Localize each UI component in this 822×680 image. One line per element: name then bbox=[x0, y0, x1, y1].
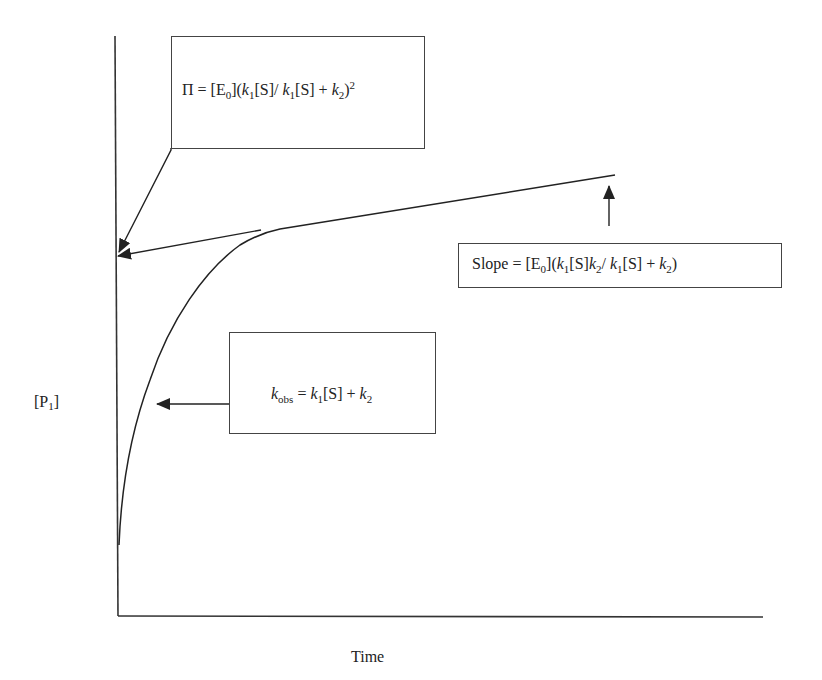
extrapolation-arrow bbox=[118, 230, 261, 256]
y-axis bbox=[115, 36, 118, 616]
kobs-annotation-box: kobs = k1[S] + k2 bbox=[229, 332, 436, 434]
kobs-equation: kobs = k1[S] + k2 bbox=[271, 385, 372, 403]
x-axis bbox=[118, 616, 763, 617]
y-label-close: ] bbox=[54, 393, 59, 410]
slope-annotation-box: Slope = [E0](k1[S]k2/ k1[S] + k2) bbox=[458, 243, 782, 288]
intercept-arrow bbox=[119, 148, 171, 252]
y-label-base: [P bbox=[34, 393, 48, 410]
intercept-equation: Π = [E0](k1[S]/ k1[S] + k2)2 bbox=[182, 81, 355, 99]
slope-equation: Slope = [E0](k1[S]k2/ k1[S] + k2) bbox=[472, 255, 677, 273]
intercept-annotation-box: Π = [E0](k1[S]/ k1[S] + k2)2 bbox=[171, 36, 425, 149]
y-axis-label: [P1] bbox=[34, 393, 59, 412]
x-axis-label: Time bbox=[351, 648, 384, 666]
